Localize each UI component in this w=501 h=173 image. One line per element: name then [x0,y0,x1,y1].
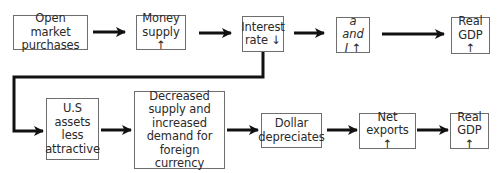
box-real-gdp-bottom: Real GDP ↑ [450,113,489,149]
box-open-market-purchases: Open market purchases [13,15,88,50]
box-a-and-i: a and I ↑ [336,17,370,53]
box-foreign-currency: Decreased supply and increased demand fo… [134,91,225,169]
box-money-supply: Money supply ↑ [136,15,186,50]
box-us-assets-less-attractive: U.S assets less attractive [46,98,99,160]
box-real-gdp-top: Real GDP ↑ [451,17,490,54]
box-net-exports: Net exports ↑ [359,113,416,149]
box-interest-rate: Interest rate ↓ [242,16,284,52]
box-dollar-depreciates: Dollar depreciates [261,113,322,148]
